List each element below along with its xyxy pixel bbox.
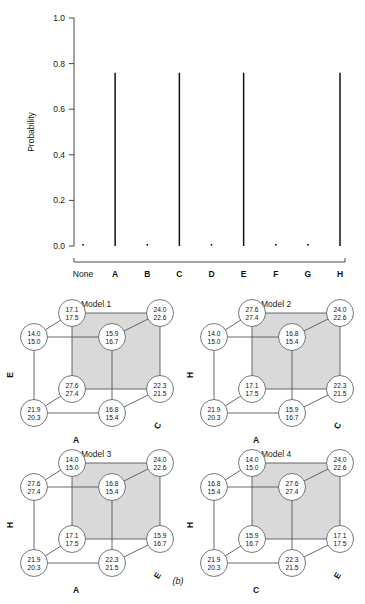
cube-node-circle xyxy=(201,550,228,577)
cube-node-value-bottom: 15.0 xyxy=(208,338,221,345)
cube-node-value-top: 21.9 xyxy=(28,556,41,563)
cube-node-value-bottom: 17.5 xyxy=(246,390,259,397)
cube-node-value-top: 16.8 xyxy=(106,406,119,413)
cube-axis-label-left: H xyxy=(5,522,15,528)
cube-node-value-bottom: 27.4 xyxy=(66,390,79,397)
y-axis-tick-label: 0.4 xyxy=(53,150,65,160)
cube-node-value-top: 14.0 xyxy=(66,456,79,463)
cube-node-value-top: 22.3 xyxy=(106,556,119,563)
cube-axis-label-right: E xyxy=(332,570,344,580)
cube-node: 14.015.0 xyxy=(59,450,86,477)
cube-node-value-top: 27.6 xyxy=(246,306,259,313)
cube-axis-label-left: E xyxy=(5,372,15,378)
cube-node-value-top: 14.0 xyxy=(28,330,41,337)
cube-node-circle xyxy=(327,450,354,477)
cube-node-value-bottom: 16.7 xyxy=(246,540,259,547)
cube-node-value-bottom: 27.4 xyxy=(28,488,41,495)
spike-dot xyxy=(146,244,148,246)
cube-node-circle xyxy=(21,324,48,351)
cube-node-circle xyxy=(21,550,48,577)
cube-title-label: Model 4 xyxy=(261,449,292,459)
cube-node-value-top: 17.1 xyxy=(66,306,79,313)
cube-node: 17.117.5 xyxy=(327,526,354,553)
y-axis-tick-label: 1.0 xyxy=(53,13,65,23)
y-axis-tick-label: 0.6 xyxy=(53,104,65,114)
cube-node-value-bottom: 22.6 xyxy=(154,314,167,321)
x-axis-category-label: H xyxy=(337,269,343,279)
x-axis-category-label: C xyxy=(176,269,182,279)
cube-node-value-bottom: 20.3 xyxy=(208,564,221,571)
cube-node-value-bottom: 22.6 xyxy=(334,464,347,471)
cube-node-value-bottom: 15.4 xyxy=(286,338,299,345)
spike-dot xyxy=(307,244,309,246)
cube-node-value-top: 17.1 xyxy=(246,382,259,389)
cube-node: 21.920.3 xyxy=(21,400,48,427)
y-axis-tick-label: 0.0 xyxy=(53,241,65,251)
cube-node: 15.916.7 xyxy=(279,400,306,427)
cube-node-value-top: 14.0 xyxy=(208,330,221,337)
cube-node-circle xyxy=(327,376,354,403)
cube-node-circle xyxy=(327,526,354,553)
cube-node-circle xyxy=(327,300,354,327)
cube-node-value-bottom: 20.3 xyxy=(208,414,221,421)
cube-node-circle xyxy=(99,324,126,351)
cube-node: 17.117.5 xyxy=(59,300,86,327)
cube-node-circle xyxy=(279,550,306,577)
cube-node-circle xyxy=(279,474,306,501)
x-axis-line xyxy=(74,258,345,262)
cube-node-value-bottom: 16.7 xyxy=(106,338,119,345)
cube-node-circle xyxy=(99,550,126,577)
cube-axis-label-bottom: A xyxy=(253,435,259,445)
cube-node: 24.022.6 xyxy=(327,450,354,477)
cube-node-value-top: 27.6 xyxy=(286,480,299,487)
spike-chart-svg: 0.00.20.40.60.81.0ProbabilityNoneABCDEFG… xyxy=(0,0,365,285)
cube-node-circle xyxy=(147,526,174,553)
cube-node-circle xyxy=(99,474,126,501)
cube-node: 15.916.7 xyxy=(99,324,126,351)
spike-group: E xyxy=(241,73,247,279)
cube-model: Model 314.015.024.022.627.627.416.815.41… xyxy=(5,449,174,595)
cube-node-circle xyxy=(21,400,48,427)
cube-node-value-bottom: 22.6 xyxy=(154,464,167,471)
cube-node: 24.022.6 xyxy=(147,300,174,327)
cube-node-value-bottom: 21.5 xyxy=(286,564,299,571)
cube-node-circle xyxy=(239,526,266,553)
cube-node: 27.627.4 xyxy=(21,474,48,501)
spike-group: B xyxy=(144,244,150,279)
cube-node-circle xyxy=(147,376,174,403)
cube-node-circle xyxy=(239,450,266,477)
cube-node: 16.815.4 xyxy=(99,474,126,501)
spike-group: C xyxy=(176,73,182,279)
spike-group: H xyxy=(337,73,343,279)
x-axis-category-label: A xyxy=(112,269,118,279)
cube-node-circle xyxy=(21,474,48,501)
cube-node-value-top: 22.3 xyxy=(286,556,299,563)
cube-node-value-bottom: 20.3 xyxy=(28,414,41,421)
cube-node-value-top: 21.9 xyxy=(208,556,221,563)
cube-node-value-bottom: 21.5 xyxy=(334,390,347,397)
cube-node: 27.627.4 xyxy=(279,474,306,501)
y-axis-title: Probability xyxy=(26,111,36,151)
cube-node: 24.022.6 xyxy=(327,300,354,327)
cube-node-value-bottom: 16.7 xyxy=(286,414,299,421)
cube-node: 14.015.0 xyxy=(239,450,266,477)
cube-node-value-bottom: 15.0 xyxy=(66,464,79,471)
cube-node-circle xyxy=(147,450,174,477)
cube-node: 17.117.5 xyxy=(59,526,86,553)
cube-node: 15.916.7 xyxy=(147,526,174,553)
cube-node: 17.117.5 xyxy=(239,376,266,403)
cube-node-value-top: 16.8 xyxy=(208,480,221,487)
x-axis-category-label: F xyxy=(273,269,278,279)
y-axis-tick-label: 0.8 xyxy=(53,59,65,69)
cube-node-value-top: 27.6 xyxy=(28,480,41,487)
cube-node-value-top: 15.9 xyxy=(246,532,259,539)
cube-node-value-top: 15.9 xyxy=(106,330,119,337)
spike-group: D xyxy=(208,244,214,279)
spike-group: None xyxy=(73,244,94,279)
spike-group: F xyxy=(273,244,278,279)
cube-node-circle xyxy=(201,400,228,427)
cube-node-circle xyxy=(201,324,228,351)
cube-node-value-top: 24.0 xyxy=(334,456,347,463)
cube-node-value-top: 15.9 xyxy=(286,406,299,413)
x-axis-category-label: None xyxy=(73,269,94,279)
